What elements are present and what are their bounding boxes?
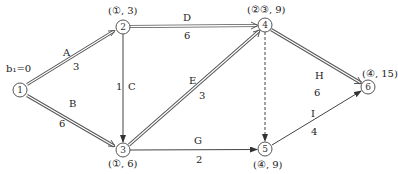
edge-d [130, 22, 258, 29]
edge-g-name: G [194, 136, 202, 146]
edge-a-name: A [63, 48, 70, 58]
start-time-label: b₁=0 [6, 64, 31, 74]
node-5: 5 [258, 142, 272, 156]
node-3: 3 [116, 143, 130, 157]
node-6: 6 [361, 80, 375, 94]
node-4: 4 [258, 18, 272, 32]
edge-a [27, 31, 115, 85]
node-1: 1 [13, 83, 27, 97]
edge-c-name: C [128, 82, 136, 92]
edge-i-weight: 4 [311, 127, 317, 137]
node-3-label: 3 [120, 145, 126, 155]
node-2-label: 2 [120, 22, 126, 32]
node-3-mark: (①, 6) [108, 159, 138, 169]
edge-a-weight: 3 [73, 62, 79, 72]
node-6-mark: (④, 15) [362, 69, 398, 79]
node-2-mark: (①, 3) [108, 6, 138, 16]
edge-d-weight: 6 [184, 31, 190, 41]
edge-e-name: E [189, 76, 196, 86]
edge-g-weight: 2 [196, 155, 202, 165]
edge-b-name: B [69, 99, 76, 109]
edge-d-name: D [183, 13, 191, 23]
edge-e [129, 30, 260, 145]
node-4-mark: (②③, 9) [247, 5, 286, 15]
edge-h-name: H [315, 71, 324, 81]
edge-e-weight: 3 [199, 91, 205, 101]
edge-c-weight: 1 [116, 82, 122, 92]
node-1-label: 1 [17, 85, 23, 95]
edge-g [130, 150, 257, 151]
edge-i-name: I [311, 109, 315, 119]
node-2: 2 [116, 20, 130, 34]
node-5-mark: (④, 9) [253, 160, 283, 170]
edge-b-weight: 6 [59, 119, 65, 129]
node-6-label: 6 [365, 82, 371, 92]
node-5-label: 5 [262, 144, 268, 154]
edge-h-weight: 6 [314, 88, 320, 98]
node-4-label: 4 [262, 20, 268, 30]
